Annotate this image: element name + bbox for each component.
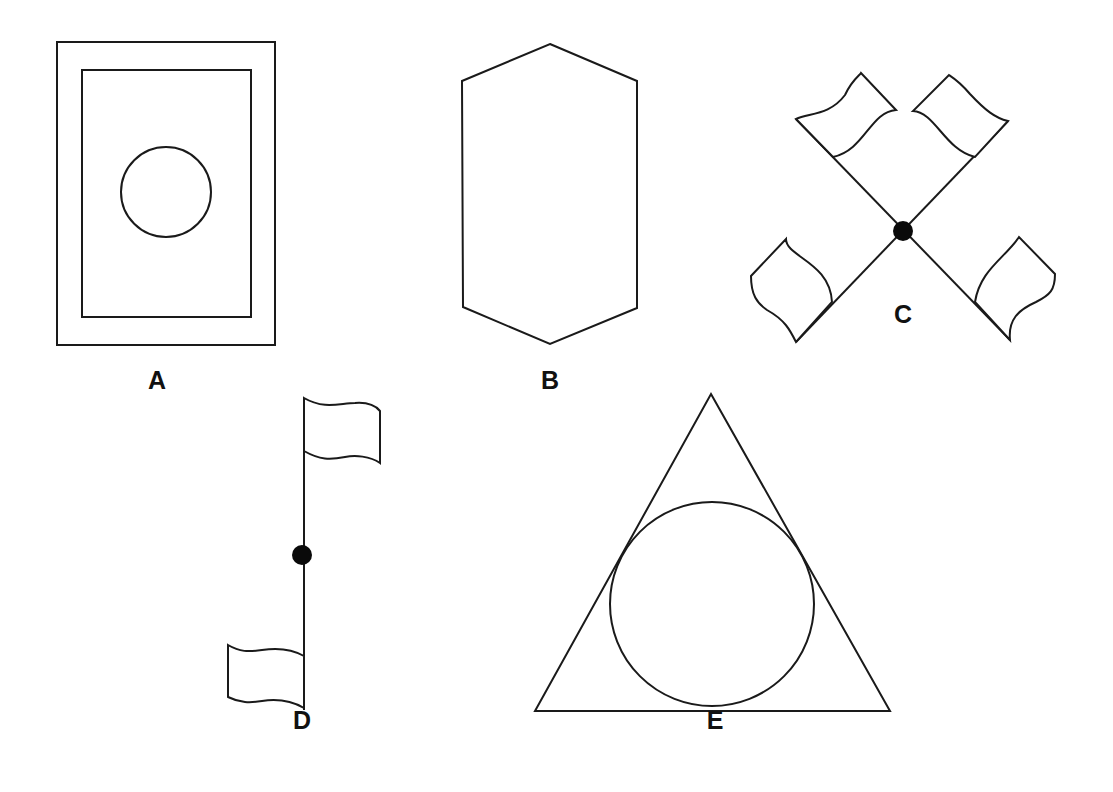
figure-b xyxy=(462,44,637,344)
flag-bottom-left xyxy=(751,239,832,342)
flag-top-left xyxy=(796,73,896,157)
flag-top-right xyxy=(913,75,1008,157)
inscribed-circle xyxy=(610,502,814,706)
figure-d xyxy=(228,398,380,710)
flag-bottom-right xyxy=(975,237,1055,340)
outer-rectangle xyxy=(57,42,275,345)
label-d: D xyxy=(293,708,311,733)
figure-a xyxy=(57,42,275,345)
pivot-dot-d xyxy=(292,545,312,565)
flag-bottom-left-d xyxy=(228,645,304,708)
hexagon xyxy=(462,44,637,344)
triangle xyxy=(535,394,890,711)
figures-canvas xyxy=(0,0,1113,792)
label-a: A xyxy=(148,368,166,393)
inner-rectangle xyxy=(82,70,251,317)
label-c: C xyxy=(894,302,912,327)
label-b: B xyxy=(541,368,559,393)
center-circle xyxy=(121,147,211,237)
flag-top-right-d xyxy=(304,398,380,463)
label-e: E xyxy=(707,708,724,733)
pivot-dot xyxy=(893,221,913,241)
figure-e xyxy=(535,394,890,711)
